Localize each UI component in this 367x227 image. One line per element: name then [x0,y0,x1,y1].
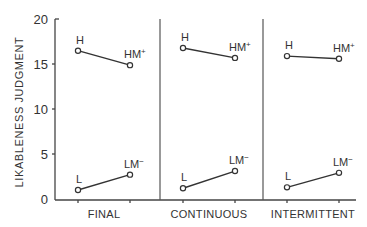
data-point-label: LM− [333,155,353,168]
panel-intermittent: HHM+LLM− [284,39,355,190]
y-tick-20: 20 [34,12,48,27]
series-line-high [183,48,235,58]
data-point-marker [336,56,341,61]
likableness-chart: LIKABLENESS JUDGMENT 20 15 10 5 0 FINAL … [0,0,367,227]
plot-area: HHM+LLM−HHM+LLM−HHM+LLM− [75,31,355,193]
series-line-low [183,171,235,188]
data-point-marker [232,55,237,60]
data-point-marker [232,168,237,173]
category-final: FINAL [88,208,121,220]
data-point-label: HM+ [333,41,355,54]
category-intermittent: INTERMITTENT [271,208,355,220]
data-point-label: H [76,34,84,46]
y-tick-0: 0 [41,192,48,207]
series-line-low [78,175,130,190]
y-tick-5: 5 [41,147,48,162]
data-point-marker [180,45,185,50]
y-axis: 20 15 10 5 0 [34,12,59,207]
series-line-low [287,173,339,187]
data-point-label: L [76,173,82,185]
y-tick-10: 10 [34,102,48,117]
data-point-label: L [181,171,187,183]
data-point-label: LM− [124,157,144,170]
data-point-marker [336,170,341,175]
data-point-label: HM+ [124,47,146,60]
data-point-label: H [181,31,189,43]
data-point-label: LM− [229,153,249,166]
category-continuous: CONTINUOUS [171,208,248,220]
data-point-marker [284,54,289,59]
series-line-high [287,56,339,59]
data-point-label: H [285,39,293,51]
y-tick-15: 15 [34,57,48,72]
panel-final: HHM+LLM− [75,34,146,193]
data-point-label: HM+ [229,40,251,53]
data-point-marker [180,186,185,191]
data-point-marker [127,172,132,177]
data-point-marker [75,187,80,192]
data-point-marker [75,48,80,53]
data-point-label: L [285,170,291,182]
data-point-marker [127,63,132,68]
panel-continuous: HHM+LLM− [180,31,251,191]
series-line-high [78,51,130,65]
data-point-marker [284,185,289,190]
y-axis-label: LIKABLENESS JUDGMENT [13,37,25,188]
x-axis: FINAL CONTINUOUS INTERMITTENT [55,200,356,220]
